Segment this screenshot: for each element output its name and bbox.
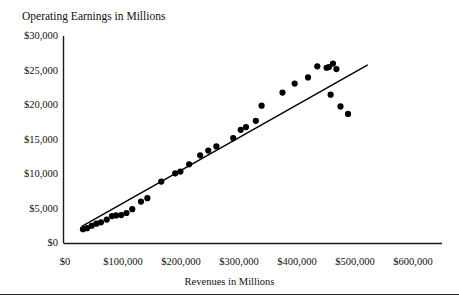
y-tick-label: $10,000 xyxy=(6,168,58,180)
data-point xyxy=(328,92,334,98)
data-point xyxy=(238,127,244,133)
bottom-divider xyxy=(0,294,459,295)
y-tick-label: $0 xyxy=(6,237,58,249)
data-point xyxy=(330,61,336,67)
data-point xyxy=(197,152,203,158)
data-point xyxy=(333,66,339,72)
data-point xyxy=(129,206,135,212)
data-point xyxy=(305,74,311,80)
data-point xyxy=(230,135,236,141)
data-point xyxy=(104,216,110,222)
data-point xyxy=(314,63,320,69)
trendline xyxy=(82,65,368,226)
data-point xyxy=(259,103,265,109)
y-tick-label: $25,000 xyxy=(6,65,58,77)
data-point xyxy=(279,89,285,95)
x-tick-label: $600,000 xyxy=(378,256,448,268)
scatter-plot-canvas xyxy=(0,0,459,299)
x-axis-label: Revenues in Millions xyxy=(0,276,459,287)
data-points-group xyxy=(80,61,351,233)
y-tick-label: $30,000 xyxy=(6,30,58,42)
data-point xyxy=(253,118,259,124)
data-point xyxy=(186,161,192,167)
data-point xyxy=(292,81,298,87)
data-point xyxy=(345,111,351,117)
y-tick-label: $15,000 xyxy=(6,134,58,146)
data-point xyxy=(144,195,150,201)
data-point xyxy=(98,219,104,225)
y-tick-label: $20,000 xyxy=(6,99,58,111)
data-point xyxy=(243,124,249,130)
data-point xyxy=(138,199,144,205)
y-tick-label: $5,000 xyxy=(6,203,58,215)
data-point xyxy=(158,178,164,184)
data-point xyxy=(177,168,183,174)
data-point xyxy=(205,147,211,153)
data-point xyxy=(213,143,219,149)
chart-figure: Operating Earnings in Millions $0$5,000$… xyxy=(0,0,459,299)
data-point xyxy=(123,210,129,216)
trendline-path xyxy=(82,65,368,226)
data-point xyxy=(337,103,343,109)
